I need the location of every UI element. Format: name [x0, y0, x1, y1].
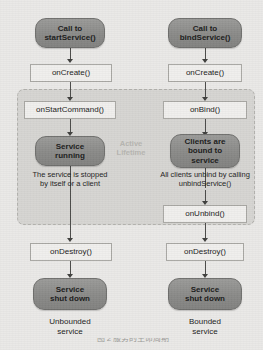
- clients-bound-line2: bound to: [185, 146, 226, 156]
- onbind-label: onBind(): [190, 105, 220, 115]
- clients-bound-line3: service: [185, 156, 226, 166]
- note-clients-unbind: All clients unbind by calling unbindServ…: [142, 170, 263, 188]
- active-lifetime-label: Active Lifetime: [105, 139, 157, 157]
- node-service-running: Service running: [35, 136, 105, 166]
- node-oncreate-left: onCreate(): [30, 64, 112, 82]
- call-to-bind-service-line1: Call to: [180, 24, 231, 34]
- node-call-to-bind-service: Call to bindService(): [168, 18, 242, 48]
- note-service-stopped-line1: The service is stopped: [10, 170, 130, 179]
- node-ondestroy-right: onDestroy(): [166, 243, 244, 261]
- service-shutdown-right-line1: Service: [185, 285, 225, 295]
- caption-bounded-line2: service: [165, 327, 245, 337]
- caption-unbounded-line1: Unbounded: [30, 317, 110, 327]
- onunbind-label: onUnbind(): [185, 209, 225, 219]
- node-ondestroy-left: onDestroy(): [30, 243, 112, 261]
- figure-bottom-caption-strip: 图 2 服务的生命周期: [0, 338, 263, 350]
- note-service-stopped: The service is stopped by itself or a cl…: [10, 170, 130, 188]
- oncreate-left-label: onCreate(): [52, 68, 90, 78]
- figure-bottom-caption: 图 2 服务的生命周期: [38, 338, 228, 343]
- node-clients-bound-to-service: Clients are bound to service: [170, 134, 240, 168]
- node-onbind: onBind(): [163, 101, 247, 119]
- call-to-bind-service-line2: bindService(): [180, 33, 231, 43]
- service-running-line1: Service: [55, 142, 85, 152]
- node-onstartcommand: onStartCommand(): [24, 101, 116, 119]
- note-clients-unbind-line2: unbindService(): [142, 179, 263, 188]
- node-service-shutdown-left: Service shut down: [33, 278, 107, 310]
- service-shutdown-left-line1: Service: [50, 285, 90, 295]
- active-lifetime-label-line2: Lifetime: [105, 148, 157, 157]
- service-running-line2: running: [55, 151, 85, 161]
- caption-bounded-service: Bounded service: [165, 317, 245, 336]
- oncreate-right-label: onCreate(): [186, 68, 224, 78]
- note-service-stopped-line2: by itself or a client: [10, 179, 130, 188]
- node-call-to-start-service: Call to startService(): [35, 18, 105, 48]
- node-onunbind: onUnbind(): [163, 205, 247, 223]
- call-to-start-service-line1: Call to: [44, 24, 95, 34]
- service-shutdown-left-line2: shut down: [50, 294, 90, 304]
- onstartcommand-label: onStartCommand(): [36, 105, 104, 115]
- caption-unbounded-service: Unbounded service: [30, 317, 110, 336]
- ondestroy-right-label: onDestroy(): [184, 247, 226, 257]
- node-service-shutdown-right: Service shut down: [168, 278, 242, 310]
- service-lifecycle-diagram: Active Lifetime Call to startService() o…: [0, 0, 263, 350]
- call-to-start-service-line2: startService(): [44, 33, 95, 43]
- caption-bounded-line1: Bounded: [165, 317, 245, 327]
- note-clients-unbind-line1: All clients unbind by calling: [142, 170, 263, 179]
- node-oncreate-right: onCreate(): [168, 64, 242, 82]
- caption-unbounded-line2: service: [30, 327, 110, 337]
- ondestroy-left-label: onDestroy(): [50, 247, 92, 257]
- clients-bound-line1: Clients are: [185, 137, 226, 147]
- service-shutdown-right-line2: shut down: [185, 294, 225, 304]
- active-lifetime-label-line1: Active: [105, 139, 157, 148]
